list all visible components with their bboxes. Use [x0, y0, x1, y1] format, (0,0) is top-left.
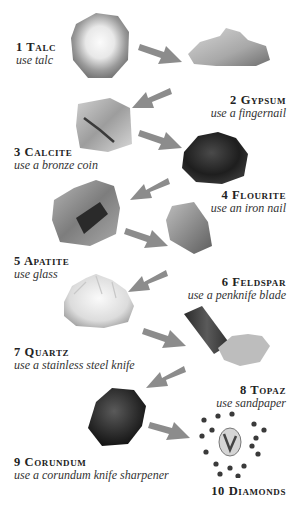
label-diamonds: 10 Diamonds	[211, 484, 286, 498]
diamonds-image	[196, 410, 270, 478]
mineral-name: 4 Flourite	[211, 188, 286, 202]
mineral-name: 9 Corundum	[14, 455, 169, 469]
topaz-image	[182, 304, 274, 370]
arrow-3-to-4	[138, 128, 184, 154]
scratch-tool: use an iron nail	[211, 202, 286, 216]
mineral-name: 10 Diamonds	[211, 484, 286, 498]
label-flourite: 4 Flourite use an iron nail	[211, 188, 286, 216]
scratch-tool: use a bronze coin	[14, 159, 98, 173]
label-corundum: 9 Corundum use a corundum knife sharpene…	[14, 455, 169, 483]
scratch-tool: use a penknife blade	[188, 289, 286, 303]
arrow-4-to-5	[128, 178, 172, 206]
mineral-name: 2 Gypsum	[211, 93, 286, 107]
gypsum-image	[186, 26, 272, 68]
talc-image	[68, 10, 132, 82]
scratch-tool: use talc	[16, 54, 56, 68]
arrow-9-to-10	[148, 420, 192, 444]
flourite-image	[178, 128, 252, 186]
corundum-image	[84, 384, 150, 450]
label-gypsum: 2 Gypsum use a fingernail	[211, 93, 286, 121]
arrow-7-to-8	[142, 326, 188, 354]
mineral-name: 1 Talc	[16, 40, 56, 54]
label-calcite: 3 Calcite use a bronze coin	[14, 145, 98, 173]
scratch-tool: use sandpaper	[216, 397, 286, 411]
label-topaz: 8 Topaz use sandpaper	[216, 383, 286, 411]
feldspar-image	[164, 200, 214, 256]
quartz-image	[60, 272, 136, 330]
label-talc: 1 Talc use talc	[16, 40, 56, 68]
scratch-tool: use a fingernail	[211, 107, 286, 121]
mineral-name: 6 Feldspar	[188, 275, 286, 289]
label-quartz: 7 Quartz use a stainless steel knife	[14, 345, 135, 373]
mineral-name: 5 Apatite	[14, 254, 69, 268]
scratch-tool: use a stainless steel knife	[14, 359, 135, 373]
scratch-tool: use glass	[14, 268, 69, 282]
label-apatite: 5 Apatite use glass	[14, 254, 69, 282]
arrow-5-to-6	[124, 226, 170, 254]
scratch-tool: use a corundum knife sharpener	[14, 469, 169, 483]
arrow-6-to-7	[126, 270, 170, 296]
label-feldspar: 6 Feldspar use a penknife blade	[188, 275, 286, 303]
mineral-name: 7 Quartz	[14, 345, 135, 359]
arrow-1-to-2	[138, 38, 184, 68]
mineral-name: 3 Calcite	[14, 145, 98, 159]
arrow-8-to-9	[144, 366, 188, 394]
mineral-name: 8 Topaz	[216, 383, 286, 397]
apatite-image	[50, 178, 122, 248]
arrow-2-to-3	[130, 88, 174, 114]
